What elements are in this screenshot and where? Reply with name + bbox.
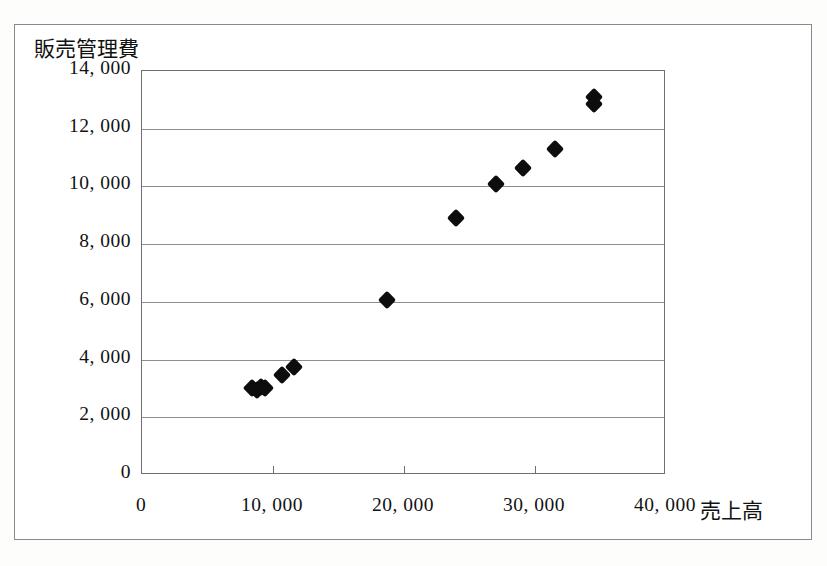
gridline-y xyxy=(142,244,664,245)
y-tick-label: 12, 000 xyxy=(69,115,131,137)
gridline-y xyxy=(142,129,664,130)
y-axis-tick-labels: 02, 0004, 0006, 0008, 00010, 00012, 0001… xyxy=(35,0,131,566)
data-point-marker xyxy=(486,174,504,192)
x-tick-label: 0 xyxy=(136,494,146,516)
x-axis-tick xyxy=(273,466,274,473)
plot-area xyxy=(141,70,665,474)
scanned-page: 販売管理費 売上高 02, 0004, 0006, 0008, 00010, 0… xyxy=(0,0,827,566)
y-tick-label: 4, 000 xyxy=(79,346,131,368)
x-tick-label: 40, 000 xyxy=(634,494,696,516)
data-point-marker xyxy=(378,291,396,309)
y-tick-label: 8, 000 xyxy=(79,230,131,252)
x-axis-tick xyxy=(535,466,536,473)
y-tick-label: 10, 000 xyxy=(69,172,131,194)
x-axis-title: 売上高 xyxy=(700,494,763,524)
y-tick-label: 14, 000 xyxy=(69,57,131,79)
y-tick-label: 0 xyxy=(121,461,131,483)
x-tick-label: 30, 000 xyxy=(503,494,565,516)
x-tick-label: 20, 000 xyxy=(372,494,434,516)
y-tick-label: 6, 000 xyxy=(79,288,131,310)
x-tick-label: 10, 000 xyxy=(241,494,303,516)
data-point-marker xyxy=(545,140,563,158)
gridline-y xyxy=(142,302,664,303)
data-point-marker xyxy=(514,158,532,176)
x-axis-tick xyxy=(404,466,405,473)
scatter-chart: 販売管理費 売上高 02, 0004, 0006, 0008, 00010, 0… xyxy=(0,0,827,566)
gridline-y xyxy=(142,417,664,418)
gridline-y xyxy=(142,360,664,361)
data-point-marker xyxy=(447,209,465,227)
y-tick-label: 2, 000 xyxy=(79,403,131,425)
gridline-y xyxy=(142,186,664,187)
